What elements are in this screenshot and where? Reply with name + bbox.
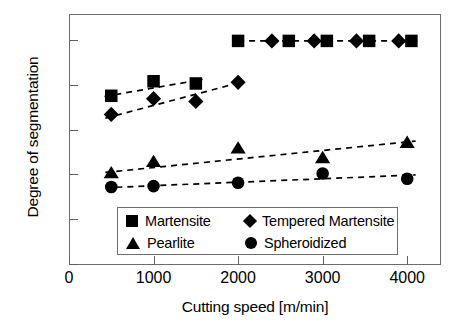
legend-row-1b: Tempered Martensite: [245, 210, 394, 232]
chart-figure: Degree of segmentation Cutting speed [m/…: [0, 0, 456, 329]
legend-entry-pearlite: Pearlite: [126, 235, 195, 251]
legend-label-spheroidized: Spheroidized: [264, 235, 346, 251]
x-tick-label: 4000: [367, 270, 447, 286]
chart-legend: Martensite Tempered Martensite Pearlite …: [117, 207, 398, 255]
legend-label-pearlite: Pearlite: [147, 235, 195, 251]
x-tick-mark: [69, 256, 70, 265]
x-tick-label: 0: [29, 270, 109, 286]
circle-marker-icon: [245, 237, 257, 249]
y-tick-mark: [70, 264, 78, 265]
legend-label-tempered-martensite: Tempered Martensite: [262, 213, 394, 229]
legend-label-martensite: Martensite: [145, 213, 211, 229]
legend-entry-martensite: Martensite: [126, 213, 211, 229]
y-tick-mark: [70, 85, 78, 86]
x-tick-label: 2000: [198, 270, 278, 286]
y-tick-mark: [70, 40, 78, 41]
y-tick-mark: [70, 219, 78, 220]
x-tick-label: 3000: [283, 270, 363, 286]
x-tick-label: 1000: [114, 270, 194, 286]
x-tick-mark: [323, 256, 324, 265]
triangle-marker-icon: [126, 237, 140, 249]
diamond-marker-icon: [243, 214, 257, 228]
y-axis-title: Degree of segmentation: [24, 12, 42, 262]
x-tick-mark: [238, 256, 239, 265]
legend-row-2: Pearlite: [126, 232, 195, 254]
legend-row-1: Martensite: [126, 210, 211, 232]
y-tick-mark: [70, 174, 78, 175]
legend-row-2b: Spheroidized: [245, 232, 346, 254]
legend-entry-tempered-martensite: Tempered Martensite: [245, 213, 394, 229]
y-tick-mark: [70, 130, 78, 131]
x-tick-mark: [154, 256, 155, 265]
legend-entry-spheroidized: Spheroidized: [245, 235, 346, 251]
x-tick-mark: [407, 256, 408, 265]
square-marker-icon: [126, 215, 138, 227]
x-axis-title: Cutting speed [m/min]: [69, 298, 441, 316]
